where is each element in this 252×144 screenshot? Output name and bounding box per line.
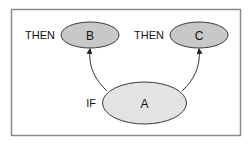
if-then-diagram: B THEN C THEN A IF [0, 0, 252, 144]
node-b-label: B [86, 29, 94, 43]
node-a-label: A [140, 97, 148, 111]
node-a-prefix: IF [86, 97, 96, 109]
node-c-label: C [195, 29, 204, 43]
node-c-prefix: THEN [134, 29, 164, 41]
node-b-prefix: THEN [25, 29, 55, 41]
